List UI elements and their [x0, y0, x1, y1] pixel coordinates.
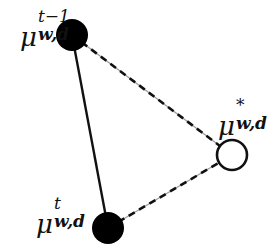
label-mu-previous-subscript: w,d [38, 26, 69, 43]
edge-dashed-current-to-star [108, 155, 232, 228]
label-mu-star-subscript: w,d [236, 115, 267, 132]
label-mu-previous-superscript: t−1 [38, 8, 70, 25]
edge-solid-prev-to-current [72, 35, 108, 228]
diagram-canvas: μt−1w,d μ*w,d μtw,d [0, 0, 280, 251]
label-mu-current-symbol: μ [36, 211, 53, 237]
label-mu-current-scripts: tw,d [53, 207, 93, 233]
label-mu-previous-scripts: t−1w,d [37, 20, 77, 46]
node-mu-star [217, 140, 247, 170]
label-mu-previous: μt−1w,d [20, 20, 77, 50]
label-mu-star-scripts: *w,d [235, 109, 275, 135]
label-mu-previous-symbol: μ [20, 24, 37, 50]
label-mu-star-superscript: * [236, 97, 245, 114]
edge-dashed-prev-to-star [72, 35, 232, 155]
label-mu-current-superscript: t [54, 195, 61, 212]
label-mu-star: μ*w,d [218, 109, 275, 139]
label-mu-current-subscript: w,d [54, 213, 85, 230]
node-mu-current [92, 212, 124, 244]
label-mu-current: μtw,d [36, 207, 93, 237]
label-mu-star-symbol: μ [218, 113, 235, 139]
